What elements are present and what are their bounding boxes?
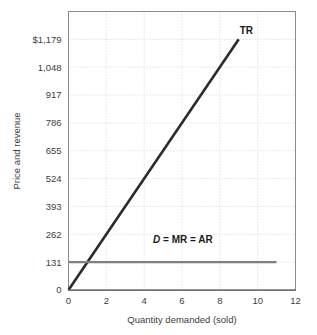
x-tick-label: 8 xyxy=(217,295,222,306)
y-axis-title: Price and revenue xyxy=(11,112,22,189)
x-tick-label: 12 xyxy=(290,295,301,306)
x-tick-label: 4 xyxy=(142,295,147,306)
demand-equalities: = MR = AR xyxy=(160,234,213,245)
y-tick-label: 1,048 xyxy=(38,62,62,73)
chart-figure: 01312623935246557869171,048$1,179 024681… xyxy=(0,0,317,335)
y-tick-label: 393 xyxy=(46,201,62,212)
x-tick-label: 10 xyxy=(252,295,263,306)
y-tick-label: 262 xyxy=(46,229,62,240)
x-axis-title: Quantity demanded (sold) xyxy=(127,314,236,325)
series-label-tr: TR xyxy=(240,25,254,36)
chart-background xyxy=(0,0,317,335)
y-tick-label: 655 xyxy=(46,145,62,156)
y-tick-label: 0 xyxy=(56,284,61,295)
x-tick-label: 6 xyxy=(179,295,184,306)
y-tick-label: 786 xyxy=(46,117,62,128)
y-tick-label: 131 xyxy=(46,257,62,268)
y-tick-label: $1,179 xyxy=(32,34,61,45)
y-tick-label: 917 xyxy=(46,89,62,100)
demand-symbol: D xyxy=(153,234,160,245)
y-tick-label: 524 xyxy=(46,173,62,184)
chart-canvas: 01312623935246557869171,048$1,179 024681… xyxy=(0,0,317,335)
x-tick-label: 2 xyxy=(104,295,109,306)
x-tick-label: 0 xyxy=(66,295,71,306)
series-label-demand: D = MR = AR xyxy=(153,234,213,245)
